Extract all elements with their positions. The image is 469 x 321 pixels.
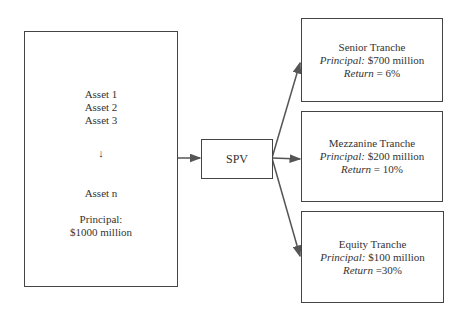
tranche-name: Equity Tranche: [339, 238, 407, 251]
principal-label: Principal:: [320, 251, 365, 263]
mezzanine-tranche-box: Mezzanine Tranche Principal: $200 millio…: [301, 111, 443, 202]
asset-item: Asset 1: [85, 88, 118, 101]
return-value: =30%: [373, 264, 402, 276]
principal-label: Principal:: [320, 54, 365, 66]
return-label: Return: [344, 67, 374, 79]
return-label: Return: [341, 163, 371, 175]
arrow-spv-to-mezzanine: [272, 158, 300, 159]
equity-tranche-box: Equity Tranche Principal: $100 million R…: [301, 211, 444, 303]
return-label: Return: [343, 264, 373, 276]
tranche-name: Senior Tranche: [339, 41, 406, 54]
principal-value: $700 million: [365, 54, 424, 66]
tranche-name: Mezzanine Tranche: [329, 137, 415, 150]
principal-value: $200 million: [365, 150, 424, 162]
asset-item: Asset 3: [85, 114, 118, 127]
return-value: = 6%: [374, 67, 400, 79]
spv-box: SPV: [201, 139, 273, 179]
principal-value: $100 million: [365, 251, 424, 263]
asset-item-last: Asset n: [85, 187, 118, 200]
spv-label: SPV: [226, 153, 248, 166]
pool-principal-value: $1000 million: [70, 226, 132, 239]
principal-label: Principal:: [320, 150, 365, 162]
asset-item: Asset 2: [85, 101, 118, 114]
arrow-spv-to-senior: [272, 63, 300, 158]
pool-principal-label: Principal:: [80, 213, 123, 226]
return-value: = 10%: [371, 163, 403, 175]
asset-pool-box: Asset 1 Asset 2 Asset 3 ↓ Asset n Princi…: [24, 31, 178, 287]
down-arrow-icon: ↓: [98, 147, 104, 160]
arrow-spv-to-equity: [272, 158, 300, 256]
senior-tranche-box: Senior Tranche Principal: $700 million R…: [301, 18, 443, 102]
